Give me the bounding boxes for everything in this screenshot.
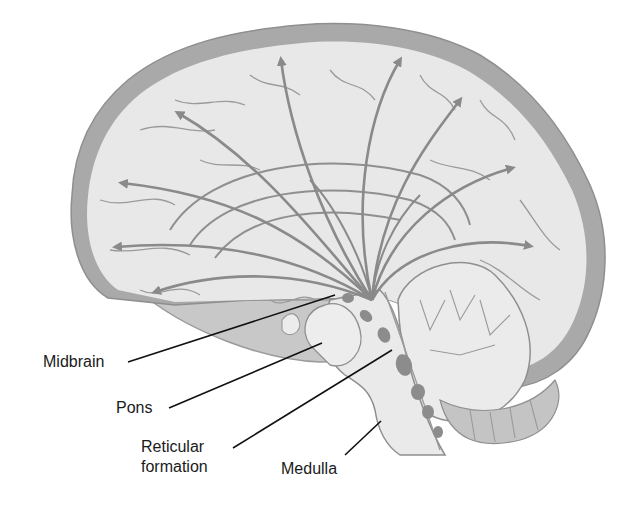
leader-pons — [169, 343, 322, 408]
brain-illustration — [0, 0, 623, 506]
brain-diagram: Midbrain Pons Reticular formation Medull… — [0, 0, 623, 506]
label-midbrain: Midbrain — [43, 352, 104, 371]
label-medulla: Medulla — [281, 459, 337, 478]
label-pons: Pons — [116, 398, 152, 417]
leader-medulla — [345, 421, 381, 455]
label-reticular-formation: Reticular formation — [141, 437, 208, 477]
